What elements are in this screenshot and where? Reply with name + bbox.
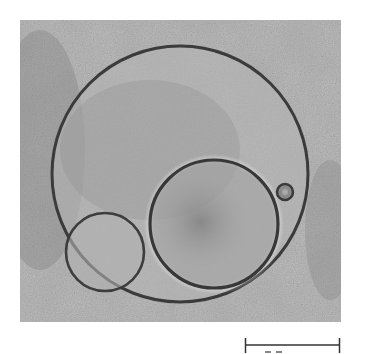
micrograph <box>0 0 373 354</box>
medium-vesicle-core <box>157 174 253 270</box>
scale-bar-label-cropped <box>265 351 282 353</box>
scale-bar <box>245 338 340 353</box>
dark-region-right <box>305 160 355 300</box>
micrograph-image <box>0 20 355 322</box>
tiny-vesicle-center <box>282 189 288 195</box>
